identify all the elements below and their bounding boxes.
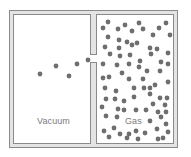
gas-particle	[166, 62, 171, 67]
partition-opening	[90, 55, 97, 62]
escaping-particle	[86, 58, 91, 63]
gas-particle	[134, 129, 139, 134]
gas-particle	[132, 86, 137, 91]
gas-particle	[136, 137, 141, 142]
gas-particle	[135, 41, 140, 46]
gas-particle	[168, 33, 173, 38]
gas-particle	[104, 97, 109, 102]
gas-particle	[155, 47, 160, 52]
gas-particle	[161, 136, 166, 141]
gas-particle	[148, 92, 153, 97]
gas-expansion-diagram	[0, 0, 191, 157]
gas-particle	[125, 136, 130, 141]
gas-particle	[164, 21, 169, 26]
gas-particle	[132, 95, 137, 100]
gas-particle	[100, 105, 105, 110]
gas-particle	[166, 130, 171, 135]
gas-particle	[166, 80, 171, 85]
gas-particle	[144, 108, 149, 113]
gas-label: Gas	[125, 116, 142, 126]
gas-particle	[125, 40, 130, 45]
gas-particle	[106, 20, 111, 25]
gas-particle	[116, 107, 121, 112]
gas-particle	[166, 51, 171, 56]
gas-particle	[142, 86, 147, 91]
gas-particle	[122, 108, 127, 113]
gas-particle	[155, 127, 160, 132]
gas-particle	[148, 46, 153, 51]
gas-particle	[141, 77, 146, 82]
gas-particle	[164, 122, 169, 127]
gas-particle	[148, 119, 153, 124]
gas-particle	[107, 75, 112, 80]
gas-particle	[115, 63, 120, 68]
gas-particle	[165, 96, 170, 101]
gas-particle	[143, 131, 148, 136]
gas-particle	[159, 115, 164, 120]
gas-particle	[151, 33, 156, 38]
gas-particle	[153, 83, 158, 88]
gas-particle	[149, 52, 154, 57]
gas-particle	[158, 96, 163, 101]
escaping-particle	[75, 62, 80, 67]
gas-particle	[101, 62, 106, 67]
gas-particle	[134, 108, 139, 113]
escaping-particle	[67, 74, 72, 79]
gas-particle	[137, 65, 142, 70]
gas-particle	[156, 110, 161, 115]
gas-particle	[123, 23, 128, 28]
gas-particle	[102, 129, 107, 134]
gas-particle	[151, 102, 156, 107]
gas-particle	[130, 29, 135, 34]
gas-particle	[157, 26, 162, 31]
gas-particle	[122, 99, 127, 104]
gas-particle	[103, 45, 108, 50]
gas-particle	[164, 110, 169, 115]
gas-particle	[115, 115, 120, 120]
gas-particle	[113, 97, 118, 102]
gas-particle	[163, 103, 168, 108]
gas-particle	[101, 76, 106, 81]
gas-particle	[106, 35, 111, 40]
gas-particle	[103, 86, 108, 91]
escaping-particle	[38, 72, 43, 77]
gas-particle	[120, 71, 125, 76]
gas-particle	[159, 60, 164, 65]
gas-particle	[112, 126, 117, 131]
gas-particle	[127, 77, 132, 82]
gas-particle	[108, 52, 113, 57]
gas-particle	[107, 135, 112, 140]
escaping-particle	[54, 64, 59, 69]
vacuum-label: Vacuum	[37, 116, 70, 126]
gas-particle	[128, 53, 133, 58]
gas-particle	[101, 26, 106, 31]
gas-particle	[158, 69, 163, 74]
gas-particle	[118, 132, 123, 137]
gas-particle	[145, 69, 150, 74]
gas-particle	[138, 59, 143, 64]
gas-particle	[156, 137, 161, 142]
gas-particle	[137, 21, 142, 26]
gas-particle	[116, 27, 121, 32]
gas-particle	[104, 114, 109, 119]
gas-particle	[148, 86, 153, 91]
gas-particle	[141, 27, 146, 32]
gas-particle	[117, 46, 122, 51]
gas-particle	[118, 54, 123, 59]
gas-particle	[130, 43, 135, 48]
gas-particle	[117, 38, 122, 43]
gas-particle	[114, 89, 119, 94]
gas-particle	[127, 62, 132, 67]
